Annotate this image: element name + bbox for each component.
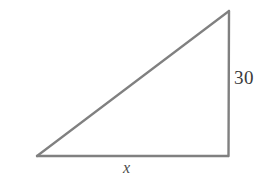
triangle-figure: 30 x — [0, 0, 263, 175]
triangle-vertical-leg-line — [229, 11, 230, 156]
triangle-hypotenuse-line — [37, 11, 229, 156]
vertical-leg-label: 30 — [234, 68, 254, 87]
base-label: x — [123, 160, 130, 175]
triangle-drawing — [0, 0, 263, 175]
